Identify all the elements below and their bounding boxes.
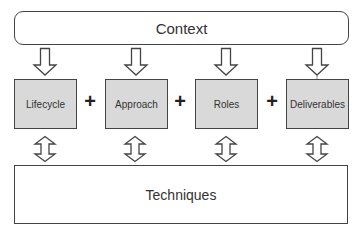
double-arrow-icon <box>124 136 146 162</box>
down-arrow-icon <box>214 48 238 76</box>
component-label: Lifecycle <box>26 99 65 110</box>
context-label: Context <box>156 20 208 37</box>
down-arrow-icon <box>124 48 148 76</box>
plus-operator: + <box>265 90 279 112</box>
component-label: Approach <box>115 99 158 110</box>
component-box-deliverables: Deliverables <box>286 79 349 129</box>
down-arrow-icon <box>33 48 57 76</box>
plus-operator: + <box>173 90 187 112</box>
context-box: Context <box>14 11 349 45</box>
component-box-lifecycle: Lifecycle <box>14 79 77 129</box>
component-label: Roles <box>214 99 240 110</box>
double-arrow-icon <box>215 136 237 162</box>
component-label: Deliverables <box>290 99 345 110</box>
double-arrow-icon <box>34 136 56 162</box>
techniques-box: Techniques <box>14 165 348 224</box>
techniques-label: Techniques <box>146 187 217 203</box>
down-arrow-icon <box>305 48 329 80</box>
component-box-roles: Roles <box>195 79 258 129</box>
double-arrow-icon <box>306 136 328 162</box>
plus-operator: + <box>83 90 97 112</box>
component-box-approach: Approach <box>105 79 168 129</box>
